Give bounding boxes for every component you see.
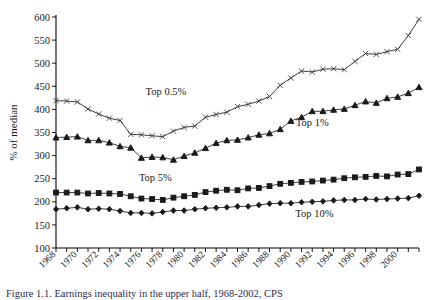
y-tick-label: 300: [34, 150, 50, 161]
data-point-marker: [64, 190, 69, 195]
x-tick-label: 1998: [357, 249, 378, 270]
data-point-marker: [171, 208, 176, 214]
data-point-marker: [277, 126, 283, 131]
data-point-marker: [246, 186, 251, 191]
data-point-marker: [171, 195, 176, 200]
data-point-marker: [278, 181, 283, 186]
y-tick-label: 550: [34, 35, 50, 46]
series-line: [56, 87, 419, 160]
data-point-marker: [385, 174, 390, 179]
series-annotation: Top 10%: [295, 208, 333, 219]
data-point-marker: [256, 186, 261, 191]
series-group: [53, 17, 422, 216]
axis-title-group: % of median: [7, 104, 19, 161]
series-annotation: Top 0.5%: [146, 86, 187, 97]
x-tick-label: 1986: [229, 249, 250, 270]
data-point-marker: [352, 59, 357, 64]
x-tick-label: 1972: [80, 249, 101, 270]
data-point-marker: [352, 197, 357, 203]
data-point-marker: [417, 167, 422, 172]
data-point-marker: [267, 184, 272, 189]
y-tick-label: 350: [34, 127, 50, 138]
data-point-marker: [160, 198, 165, 203]
data-point-marker: [235, 204, 240, 210]
data-point-marker: [321, 178, 326, 183]
y-axis-title: % of median: [7, 104, 19, 161]
data-point-marker: [299, 199, 304, 205]
x-tick-label: 1974: [101, 249, 122, 270]
data-point-marker: [416, 84, 422, 89]
data-point-marker: [118, 192, 123, 197]
data-point-marker: [374, 174, 379, 179]
series-annotation: Top 1%: [296, 117, 329, 128]
data-point-marker: [406, 195, 411, 201]
data-point-marker: [118, 208, 123, 214]
data-point-marker: [278, 200, 283, 206]
data-point-marker: [214, 205, 219, 211]
series-annotation: Top 5%: [139, 172, 172, 183]
data-point-marker: [374, 197, 379, 203]
data-point-marker: [203, 190, 208, 195]
data-point-marker: [203, 205, 208, 211]
data-point-marker: [416, 17, 421, 22]
data-point-marker: [353, 175, 358, 180]
data-point-marker: [96, 111, 101, 116]
data-point-marker: [278, 83, 283, 88]
y-tick-label: 600: [34, 12, 50, 23]
data-point-marker: [405, 90, 411, 95]
series-top-0-5: [53, 17, 421, 140]
data-point-marker: [310, 179, 315, 184]
data-point-marker: [417, 193, 422, 199]
data-point-marker: [363, 174, 368, 179]
y-tick-label: 200: [34, 196, 50, 207]
data-point-marker: [288, 180, 293, 185]
data-point-marker: [54, 206, 59, 212]
x-axis-group: 1968197019721974197619781980198219841986…: [37, 248, 419, 270]
data-point-marker: [150, 211, 155, 217]
data-point-marker: [256, 98, 261, 103]
data-point-marker: [331, 198, 336, 204]
data-point-marker: [192, 192, 197, 197]
data-point-marker: [75, 190, 80, 195]
data-point-marker: [85, 106, 90, 111]
data-point-marker: [267, 130, 273, 135]
data-point-marker: [256, 202, 261, 208]
y-axis-group: 100150200250300350400450500550600: [34, 12, 56, 254]
data-point-marker: [182, 208, 187, 214]
data-point-marker: [139, 210, 144, 216]
y-tick-label: 500: [34, 58, 50, 69]
data-point-marker: [86, 191, 91, 196]
data-point-marker: [384, 196, 389, 202]
series-top-1: [53, 84, 422, 162]
data-point-marker: [128, 210, 133, 216]
data-point-marker: [288, 200, 293, 206]
data-point-marker: [107, 206, 112, 212]
x-tick-label: 1976: [122, 249, 143, 270]
x-tick-label: 1982: [186, 249, 207, 270]
data-point-marker: [64, 205, 69, 211]
data-point-marker: [406, 33, 411, 38]
data-point-marker: [107, 191, 112, 196]
figure-caption: Figure 1.1. Earnings inequality in the u…: [6, 288, 419, 300]
data-point-marker: [203, 115, 208, 120]
data-point-marker: [224, 187, 229, 192]
x-tick-label: 1996: [336, 249, 357, 270]
data-point-marker: [150, 197, 155, 202]
y-tick-label: 250: [34, 173, 50, 184]
x-tick-label: 1992: [293, 249, 314, 270]
data-point-marker: [267, 94, 272, 99]
data-point-marker: [267, 201, 272, 207]
data-point-marker: [235, 188, 240, 193]
data-point-marker: [96, 206, 101, 212]
data-point-marker: [171, 129, 176, 134]
data-point-marker: [86, 206, 91, 212]
data-point-marker: [202, 145, 208, 150]
data-point-marker: [182, 194, 187, 199]
data-point-marker: [75, 205, 80, 211]
data-point-marker: [54, 190, 59, 195]
data-point-marker: [310, 199, 315, 205]
data-point-marker: [288, 75, 293, 80]
